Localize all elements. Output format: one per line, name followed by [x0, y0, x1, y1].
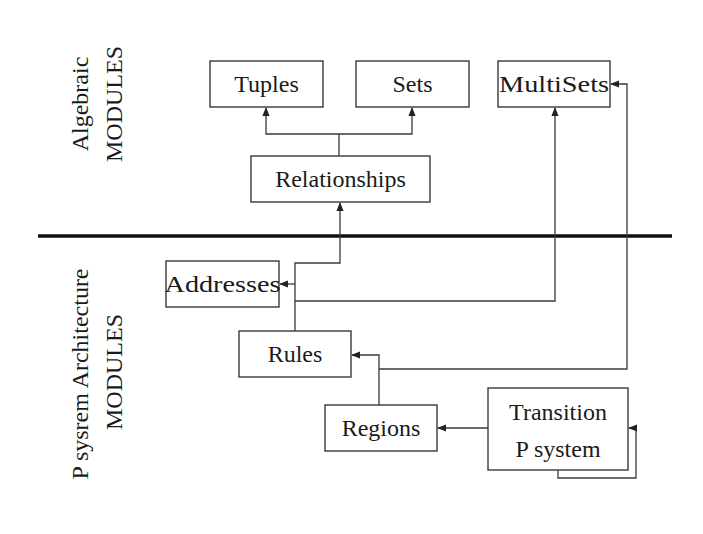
section-label-psystem-line1: P sysrem Architecture — [67, 268, 93, 479]
node-sets-label: Sets — [392, 71, 432, 97]
edge-regions-rules — [352, 355, 379, 405]
edge-rules-relationships — [295, 203, 340, 331]
node-regions-label: Regions — [342, 415, 421, 441]
section-label-algebraic-line1: Algebraic — [67, 57, 93, 152]
node-rules: Rules — [239, 331, 351, 377]
node-transition-p-system: Transition P system — [488, 388, 628, 470]
node-multisets: MultiSets — [498, 61, 610, 107]
node-multisets-label: MultiSets — [499, 71, 609, 97]
edge-regions-multisets — [379, 84, 627, 369]
node-addresses-label: Addresses — [165, 271, 281, 297]
node-rules-label: Rules — [268, 341, 323, 367]
node-sets: Sets — [356, 61, 469, 107]
node-regions: Regions — [325, 405, 437, 451]
node-relationships-label: Relationships — [275, 166, 406, 192]
edge-relationships-tuples — [266, 108, 339, 134]
node-addresses: Addresses — [165, 261, 281, 307]
section-label-algebraic-line2: MODULES — [101, 46, 127, 162]
edge-rules-multisets — [295, 108, 555, 301]
node-transition-label-line1: Transition — [509, 399, 607, 425]
section-label-psystem: P sysrem Architecture MODULES — [67, 268, 127, 479]
module-diagram: Algebraic MODULES P sysrem Architecture … — [0, 0, 703, 534]
edge-relationships-sets — [339, 108, 412, 134]
section-label-algebraic: Algebraic MODULES — [67, 46, 127, 162]
section-label-psystem-line2: MODULES — [101, 314, 127, 430]
node-relationships: Relationships — [251, 156, 430, 202]
node-transition-label-line2: P system — [515, 436, 600, 462]
node-tuples: Tuples — [210, 61, 323, 107]
node-tuples-label: Tuples — [234, 71, 298, 97]
